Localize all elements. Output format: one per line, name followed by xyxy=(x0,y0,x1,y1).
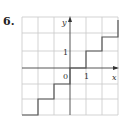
step-function-chart: y x 0 1 1 xyxy=(0,0,123,131)
y-axis-label: y xyxy=(61,18,67,27)
x-tick-label-1: 1 xyxy=(84,72,89,81)
y-tick-label-1: 1 xyxy=(63,48,68,57)
origin-label: 0 xyxy=(63,72,68,81)
x-axis-label: x xyxy=(112,73,117,82)
axes xyxy=(22,19,117,115)
